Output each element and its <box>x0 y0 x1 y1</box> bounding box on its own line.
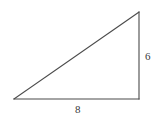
horizontal-leg-label: 8 <box>75 103 81 115</box>
hypotenuse-line <box>14 12 139 99</box>
triangle-figure: 6 8 <box>0 0 157 117</box>
triangle-drawing <box>0 0 157 117</box>
vertical-leg-label: 6 <box>145 50 151 62</box>
